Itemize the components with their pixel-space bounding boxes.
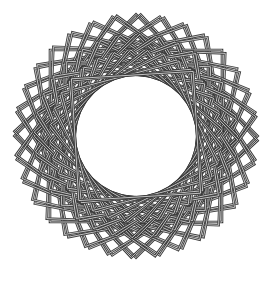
inner-squares-square-highlight bbox=[69, 69, 202, 202]
rosette-figure bbox=[0, 0, 270, 281]
inner-squares-square bbox=[69, 69, 202, 202]
inner-squares-square bbox=[69, 69, 202, 202]
rosette-line-pattern bbox=[14, 14, 257, 257]
inner-squares-square-highlight bbox=[69, 69, 202, 202]
